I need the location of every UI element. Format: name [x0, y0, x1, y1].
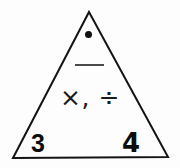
operators-label: ×, ÷ — [0, 85, 180, 110]
corner-value-right: 4 — [122, 130, 140, 156]
diagram-canvas: ×, ÷ 3 4 — [0, 0, 180, 168]
corner-value-left: 3 — [31, 131, 45, 156]
horizontal-rule-icon — [75, 64, 104, 66]
filled-dot-icon — [85, 31, 92, 38]
